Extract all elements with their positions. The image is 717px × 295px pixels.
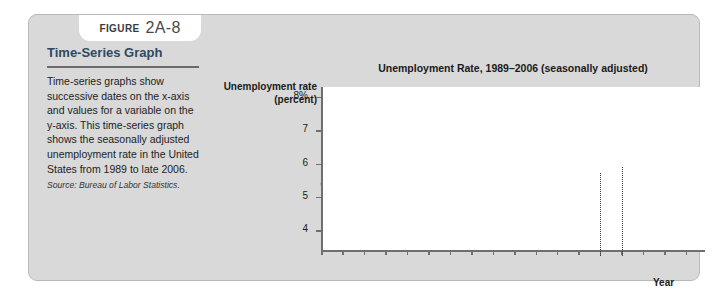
x-tick: '96	[471, 250, 473, 255]
figure-screenshot: FIGURE 2A-8 Time-Series Graph Time-serie…	[0, 0, 717, 295]
x-tick: '91	[364, 250, 366, 255]
figure-title: Time-Series Graph	[47, 45, 205, 60]
recession-start-marker	[600, 173, 601, 256]
x-tick: '97	[493, 250, 495, 255]
x-tick: '92	[385, 250, 387, 255]
figure-source: Source: Bureau of Labor Statistics.	[47, 180, 205, 190]
x-tick: '06	[686, 250, 688, 255]
y-tick-label: 8%	[294, 90, 308, 101]
figure-description-panel: Time-Series Graph Time-series graphs sho…	[45, 45, 205, 190]
chart-title: Unemployment Rate, 1989–2006 (seasonally…	[321, 62, 705, 74]
y-axis-line	[321, 87, 323, 250]
x-tick: '90	[342, 250, 344, 255]
y-tick: 7	[316, 130, 321, 132]
x-tick: '05	[664, 250, 666, 255]
figure-body-text: Time-series graphs show successive dates…	[47, 74, 203, 176]
x-tick: '99	[536, 250, 538, 255]
plot-background	[321, 87, 705, 250]
y-tick: 5	[316, 197, 321, 199]
x-axis-label: Year	[653, 277, 674, 288]
y-tick-label: 5	[302, 190, 308, 201]
title-divider	[47, 66, 199, 68]
recession-end-marker	[622, 167, 623, 256]
plot-area: 8%7654 1989'90'91'92'93'94'95'96'97'98'9…	[321, 87, 705, 250]
x-tick: '01	[578, 250, 580, 255]
source-text: Bureau of Labor Statistics.	[79, 180, 180, 190]
x-tick: '95	[450, 250, 452, 255]
y-tick-label: 7	[302, 123, 308, 134]
y-tick: 4	[316, 230, 321, 232]
y-tick-label: 6	[302, 157, 308, 168]
source-label: Source:	[47, 180, 77, 190]
figure-number-tab: FIGURE 2A-8	[79, 15, 201, 41]
x-tick: '98	[514, 250, 516, 255]
x-tick: 2000	[557, 250, 559, 255]
y-tick: 8%	[316, 97, 321, 99]
y-tick: 6	[316, 164, 321, 166]
x-axis-line	[321, 250, 705, 252]
figure-label: FIGURE	[99, 23, 139, 34]
x-tick: '04	[643, 250, 645, 255]
x-tick: '93	[407, 250, 409, 255]
figure-card: FIGURE 2A-8 Time-Series Graph Time-serie…	[28, 14, 700, 281]
y-tick-label: 4	[302, 223, 308, 234]
x-tick: 1989	[321, 250, 323, 255]
figure-number: 2A-8	[146, 19, 181, 37]
x-tick: '94	[428, 250, 430, 255]
